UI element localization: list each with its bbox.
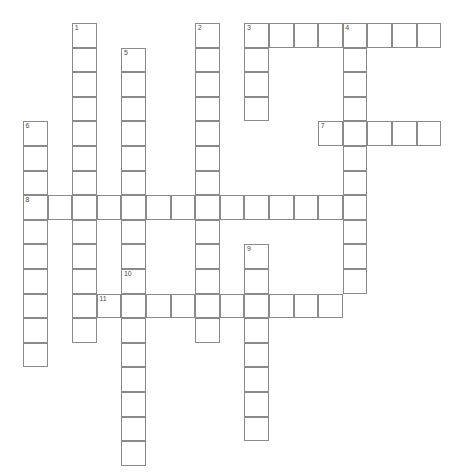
crossword-cell[interactable] bbox=[195, 171, 220, 196]
crossword-cell[interactable] bbox=[72, 318, 97, 343]
crossword-cell[interactable] bbox=[121, 220, 146, 245]
crossword-cell[interactable] bbox=[23, 146, 48, 171]
crossword-cell[interactable] bbox=[195, 97, 220, 122]
crossword-cell[interactable]: 1 bbox=[72, 23, 97, 48]
crossword-cell[interactable] bbox=[294, 23, 319, 48]
crossword-cell[interactable] bbox=[195, 244, 220, 269]
crossword-cell[interactable] bbox=[195, 146, 220, 171]
crossword-cell[interactable] bbox=[146, 195, 171, 220]
crossword-cell[interactable] bbox=[318, 23, 343, 48]
crossword-cell[interactable] bbox=[367, 23, 392, 48]
crossword-cell[interactable] bbox=[343, 171, 368, 196]
crossword-cell[interactable] bbox=[244, 294, 269, 319]
crossword-cell[interactable] bbox=[72, 121, 97, 146]
crossword-cell[interactable] bbox=[23, 318, 48, 343]
crossword-cell[interactable] bbox=[121, 97, 146, 122]
crossword-cell[interactable] bbox=[121, 343, 146, 368]
crossword-cell[interactable] bbox=[72, 220, 97, 245]
crossword-cell[interactable] bbox=[244, 48, 269, 73]
crossword-cell[interactable] bbox=[121, 441, 146, 466]
crossword-cell[interactable] bbox=[72, 269, 97, 294]
crossword-cell[interactable] bbox=[23, 244, 48, 269]
crossword-cell[interactable]: 6 bbox=[23, 121, 48, 146]
crossword-cell[interactable] bbox=[72, 72, 97, 97]
crossword-cell[interactable] bbox=[343, 97, 368, 122]
crossword-cell[interactable] bbox=[392, 23, 417, 48]
crossword-cell[interactable] bbox=[121, 171, 146, 196]
crossword-cell[interactable] bbox=[343, 146, 368, 171]
crossword-cell[interactable] bbox=[72, 171, 97, 196]
crossword-cell[interactable]: 9 bbox=[244, 244, 269, 269]
crossword-cell[interactable] bbox=[244, 269, 269, 294]
crossword-cell[interactable] bbox=[343, 72, 368, 97]
crossword-cell[interactable] bbox=[367, 121, 392, 146]
crossword-cell[interactable] bbox=[121, 195, 146, 220]
crossword-grid[interactable]: 1523476891011 bbox=[0, 0, 475, 472]
crossword-cell[interactable] bbox=[244, 97, 269, 122]
crossword-cell[interactable] bbox=[171, 294, 196, 319]
crossword-cell[interactable] bbox=[244, 343, 269, 368]
crossword-cell[interactable] bbox=[392, 121, 417, 146]
crossword-cell[interactable] bbox=[23, 294, 48, 319]
crossword-cell[interactable] bbox=[269, 195, 294, 220]
crossword-cell[interactable] bbox=[244, 392, 269, 417]
crossword-cell[interactable] bbox=[121, 294, 146, 319]
crossword-cell[interactable] bbox=[121, 146, 146, 171]
crossword-cell[interactable] bbox=[121, 244, 146, 269]
crossword-cell[interactable] bbox=[72, 294, 97, 319]
crossword-cell[interactable] bbox=[23, 343, 48, 368]
crossword-cell[interactable] bbox=[294, 195, 319, 220]
crossword-cell[interactable] bbox=[23, 220, 48, 245]
crossword-cell[interactable] bbox=[72, 146, 97, 171]
crossword-cell[interactable] bbox=[220, 294, 245, 319]
crossword-cell[interactable] bbox=[72, 97, 97, 122]
crossword-cell[interactable] bbox=[72, 195, 97, 220]
crossword-cell[interactable] bbox=[244, 72, 269, 97]
crossword-cell[interactable] bbox=[72, 244, 97, 269]
crossword-cell[interactable] bbox=[220, 195, 245, 220]
crossword-cell[interactable] bbox=[318, 195, 343, 220]
crossword-cell[interactable] bbox=[121, 367, 146, 392]
crossword-cell[interactable] bbox=[244, 367, 269, 392]
crossword-cell[interactable] bbox=[269, 23, 294, 48]
crossword-cell[interactable] bbox=[269, 294, 294, 319]
crossword-cell[interactable]: 8 bbox=[23, 195, 48, 220]
crossword-cell[interactable] bbox=[343, 48, 368, 73]
crossword-cell[interactable] bbox=[343, 220, 368, 245]
crossword-cell[interactable] bbox=[343, 195, 368, 220]
crossword-cell[interactable] bbox=[244, 195, 269, 220]
crossword-cell[interactable] bbox=[195, 121, 220, 146]
crossword-cell[interactable] bbox=[121, 417, 146, 442]
crossword-cell[interactable] bbox=[318, 294, 343, 319]
crossword-cell[interactable]: 11 bbox=[97, 294, 122, 319]
crossword-cell[interactable] bbox=[23, 171, 48, 196]
crossword-cell[interactable]: 4 bbox=[343, 23, 368, 48]
crossword-cell[interactable] bbox=[72, 48, 97, 73]
crossword-cell[interactable] bbox=[195, 195, 220, 220]
crossword-cell[interactable]: 3 bbox=[244, 23, 269, 48]
crossword-cell[interactable] bbox=[417, 23, 442, 48]
crossword-cell[interactable] bbox=[48, 195, 73, 220]
crossword-cell[interactable] bbox=[121, 72, 146, 97]
crossword-cell[interactable]: 10 bbox=[121, 269, 146, 294]
crossword-cell[interactable] bbox=[23, 269, 48, 294]
crossword-cell[interactable] bbox=[195, 48, 220, 73]
crossword-cell[interactable] bbox=[343, 121, 368, 146]
crossword-cell[interactable]: 7 bbox=[318, 121, 343, 146]
crossword-cell[interactable] bbox=[146, 294, 171, 319]
crossword-cell[interactable] bbox=[121, 318, 146, 343]
crossword-cell[interactable] bbox=[121, 121, 146, 146]
crossword-cell[interactable] bbox=[195, 72, 220, 97]
crossword-cell[interactable] bbox=[343, 244, 368, 269]
crossword-cell[interactable] bbox=[195, 318, 220, 343]
crossword-cell[interactable] bbox=[195, 294, 220, 319]
crossword-cell[interactable] bbox=[294, 294, 319, 319]
crossword-cell[interactable]: 5 bbox=[121, 48, 146, 73]
crossword-cell[interactable]: 2 bbox=[195, 23, 220, 48]
crossword-cell[interactable] bbox=[97, 195, 122, 220]
crossword-cell[interactable] bbox=[417, 121, 442, 146]
crossword-cell[interactable] bbox=[244, 417, 269, 442]
crossword-cell[interactable] bbox=[244, 318, 269, 343]
crossword-cell[interactable] bbox=[171, 195, 196, 220]
crossword-cell[interactable] bbox=[195, 220, 220, 245]
